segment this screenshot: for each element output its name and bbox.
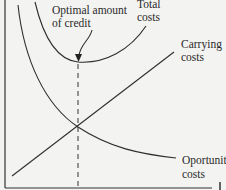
carrying-costs-label-line2: costs <box>181 51 205 63</box>
optimal-label-line2: of credit <box>52 17 91 29</box>
opportunity-costs-label-line1: Oportunity <box>182 154 226 167</box>
total-costs-label-line1: Total <box>137 0 160 10</box>
arrow-head-icon <box>75 54 82 62</box>
opportunity-costs-label-line2: costs <box>182 168 206 180</box>
carrying-costs-label-line1: Carrying <box>181 38 222 51</box>
credit-cost-diagram: Optimal amount of credit Total costs Car… <box>0 0 226 190</box>
optimal-label-line1: Optimal amount <box>52 4 128 17</box>
carrying-costs-line <box>12 52 174 176</box>
optimal-arrow-stem <box>79 30 92 56</box>
total-costs-label-line2: costs <box>137 11 161 23</box>
opportunity-costs-curve <box>18 5 176 158</box>
